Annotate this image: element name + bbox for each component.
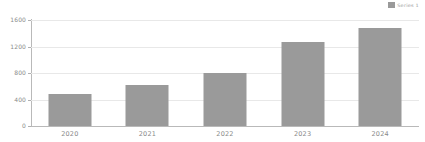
bar-slot — [31, 20, 109, 126]
chart-legend: Series 1 — [388, 1, 419, 9]
x-tick-label: 2024 — [341, 130, 419, 138]
x-tick-label: 2022 — [186, 130, 264, 138]
axis-baseline — [31, 126, 419, 127]
bar[interactable] — [126, 85, 169, 126]
bar-slot — [109, 20, 187, 126]
y-tick-label: 1200 — [2, 44, 26, 50]
y-tick-label: 1600 — [2, 17, 26, 23]
x-axis: 20202021202220232024 — [31, 130, 419, 140]
bar[interactable] — [359, 28, 402, 126]
bar-chart: Series 1 040080012001600 202020212022202… — [0, 0, 425, 142]
bar-slot — [264, 20, 342, 126]
bar[interactable] — [203, 73, 246, 126]
y-tick-label: 400 — [2, 97, 26, 103]
bar-series — [31, 20, 419, 126]
bar[interactable] — [281, 42, 324, 126]
legend-color-swatch — [388, 2, 395, 8]
x-tick-label: 2020 — [31, 130, 109, 138]
bar-slot — [341, 20, 419, 126]
bar-slot — [186, 20, 264, 126]
y-tick-label: 800 — [2, 70, 26, 76]
x-tick-label: 2021 — [109, 130, 187, 138]
x-tick-label: 2023 — [264, 130, 342, 138]
bar[interactable] — [48, 94, 91, 126]
y-tick-label: 0 — [2, 123, 26, 129]
legend-label: Series 1 — [397, 2, 419, 7]
y-tick-mark — [28, 126, 31, 127]
